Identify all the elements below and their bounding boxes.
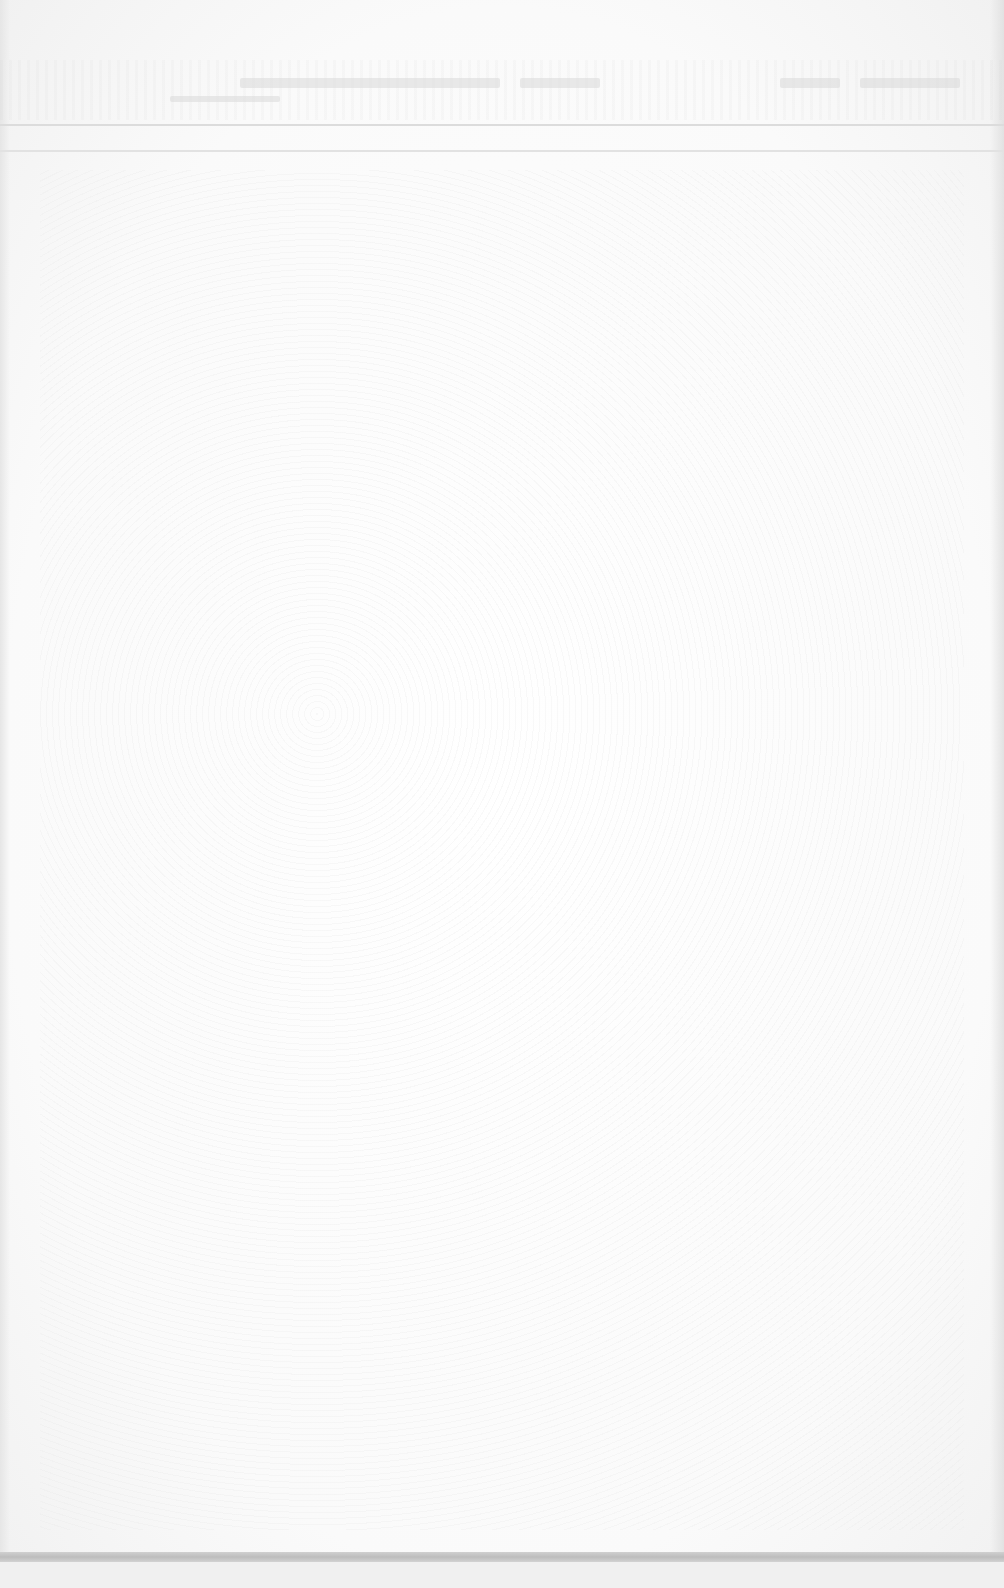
footer-scan-band (0, 1552, 1004, 1562)
header-faint-mark (860, 78, 960, 88)
blank-body-area (40, 170, 964, 1530)
header-rule-top (0, 124, 1004, 126)
header-rule-bottom (0, 150, 1004, 152)
header-faint-mark (780, 78, 840, 88)
footer-margin (0, 1562, 1004, 1588)
page-edge-right (990, 0, 1004, 1588)
header-faint-text-area (0, 60, 1004, 120)
header-faint-mark (520, 78, 600, 88)
page-edge-left (0, 0, 10, 1588)
scanned-page (0, 0, 1004, 1588)
header-faint-mark (240, 78, 500, 88)
header-faint-mark (170, 96, 280, 102)
